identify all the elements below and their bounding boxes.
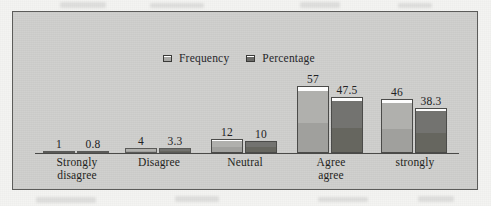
x-axis-label-line: Neutral <box>209 156 281 169</box>
x-axis-category-labels: Strongly disagree Disagree Neutral Agree… <box>13 156 477 189</box>
x-axis-label-line: agree <box>295 169 367 182</box>
chart-frame: Frequency Percentage 1 0.8 <box>12 11 478 190</box>
bar-group-strongly-disagree: 1 0.8 <box>41 43 113 153</box>
bar-percentage-agree: 47.5 <box>331 97 363 153</box>
x-axis-label-line: Disagree <box>123 156 195 169</box>
plot-area: Frequency Percentage 1 0.8 <box>13 12 477 189</box>
x-axis-label-line: disagree <box>41 169 113 182</box>
scan-artifact <box>60 2 106 8</box>
scan-artifact <box>418 196 454 202</box>
x-axis-label-agree: Agree agree <box>295 156 367 182</box>
scan-artifact <box>36 197 96 203</box>
bar-value-frequency-strongly: 46 <box>382 86 412 98</box>
bar-group-disagree: 4 3.3 <box>123 43 195 153</box>
bar-group-agree: 57 47.5 <box>295 43 367 153</box>
bar-value-percentage-strongly: 38.3 <box>416 95 446 107</box>
scan-artifact <box>318 197 368 202</box>
bar-value-frequency-disagree: 4 <box>126 135 156 147</box>
x-axis-label-line: Strongly <box>41 156 113 169</box>
scan-artifact <box>398 3 432 8</box>
bar-percentage-strongly: 38.3 <box>415 108 447 153</box>
bar-value-percentage-strongly-disagree: 0.8 <box>78 138 108 150</box>
bar-group-strongly: 46 38.3 <box>379 43 451 153</box>
x-axis-line <box>35 153 459 154</box>
bar-value-percentage-agree: 47.5 <box>332 84 362 96</box>
bar-value-frequency-strongly-disagree: 1 <box>44 138 74 150</box>
bar-value-percentage-disagree: 3.3 <box>160 135 190 147</box>
bar-percentage-neutral: 10 <box>245 141 277 153</box>
scan-artifact <box>150 3 204 8</box>
x-axis-label-line: Agree <box>295 156 367 169</box>
x-axis-label-strongly: strongly <box>379 156 451 169</box>
x-axis-label-neutral: Neutral <box>209 156 281 169</box>
bar-value-frequency-neutral: 12 <box>212 126 242 138</box>
scan-artifact <box>300 2 340 8</box>
x-axis-label-disagree: Disagree <box>123 156 195 169</box>
x-axis-label-line: strongly <box>379 156 451 169</box>
scan-artifact <box>175 196 219 202</box>
bar-value-percentage-neutral: 10 <box>246 128 276 140</box>
bar-frequency-strongly: 46 <box>381 99 413 153</box>
scanned-page-background: Frequency Percentage 1 0.8 <box>0 0 491 206</box>
x-axis-label-strongly-disagree: Strongly disagree <box>41 156 113 182</box>
bar-group-neutral: 12 10 <box>209 43 281 153</box>
bar-value-frequency-agree: 57 <box>298 73 328 85</box>
bar-frequency-agree: 57 <box>297 86 329 153</box>
bar-frequency-neutral: 12 <box>211 139 243 153</box>
